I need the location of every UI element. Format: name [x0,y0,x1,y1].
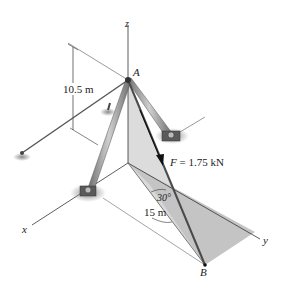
leg-left [88,82,130,190]
support-right-pin [168,132,174,138]
height-dimension-label: 10.5 m [63,83,94,95]
force-symbol: F [170,156,177,168]
tripod-diagram [0,0,286,293]
support-left-pin [85,187,91,193]
angle-arc-right [152,218,172,223]
angle-label: 30° [157,192,171,203]
x-axis-label: x [22,223,27,235]
point-a-joint [125,77,131,83]
length-dimension-label: 15 m [144,206,166,218]
force-value: = 1.75 kN [177,156,224,168]
force-label: F = 1.75 kN [170,156,224,168]
anchor-left-icon [20,151,24,155]
rear-axis-line [68,43,128,80]
point-b-label: B [200,266,207,278]
y-axis-label: y [263,234,268,246]
point-a-label: A [133,66,140,78]
dimension-tick-bottom [70,128,98,145]
z-axis-label: z [125,18,129,29]
